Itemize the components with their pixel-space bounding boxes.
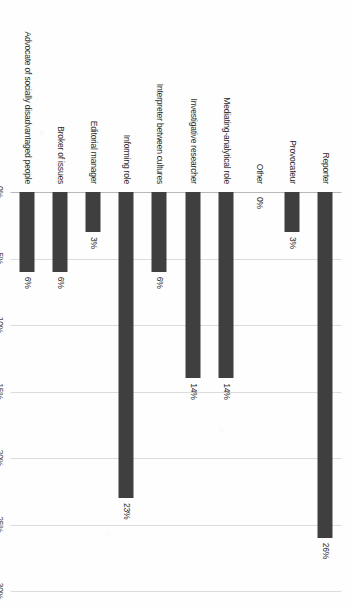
bar [218, 192, 233, 378]
category-label: Provocateur [284, 140, 299, 184]
axis-tick-label: 20% [0, 450, 4, 466]
category-label: Reporter [317, 153, 332, 184]
bar-value-label: 6% [52, 277, 67, 289]
bar-value-label: 26% [317, 543, 332, 559]
category-label: Broker of issues [52, 126, 67, 184]
axis-tick-label: 10% [0, 317, 4, 333]
gridline-20 [10, 458, 341, 459]
bar-value-label: 14% [218, 383, 233, 399]
bar [151, 192, 166, 272]
bar [118, 192, 133, 498]
axis-tick-label: 30% [0, 583, 4, 599]
bar-chart-figure: 0%5%10%15%20%25%30%26%Reporter3%Provocat… [0, 0, 351, 606]
bar-value-label: 6% [19, 277, 34, 289]
bar-value-label: 14% [185, 383, 200, 399]
gridline-30 [10, 591, 341, 592]
axis-tick-label: 25% [0, 516, 4, 532]
category-label: Other [251, 164, 266, 184]
bar-value-label: 23% [118, 503, 133, 519]
category-label: Interpreter between cultures [151, 84, 166, 184]
bar-value-label: 3% [284, 237, 299, 249]
axis-tick-label: 15% [0, 383, 4, 399]
plot-area: 0%5%10%15%20%25%30%26%Reporter3%Provocat… [10, 192, 341, 591]
bar-value-label: 3% [85, 237, 100, 249]
bar-value-label: 0% [251, 197, 266, 209]
category-label: Advocate of socially disadvantaged peopl… [19, 32, 34, 184]
category-label: Informing role [118, 135, 133, 184]
axis-tick-label: 5% [0, 253, 4, 265]
bar [19, 192, 34, 272]
bar [85, 192, 100, 232]
bar [284, 192, 299, 232]
category-label: Investigative researcher [185, 99, 200, 184]
gridline-15 [10, 392, 341, 393]
bar-value-label: 6% [151, 277, 166, 289]
category-label: Editorial manager [85, 121, 100, 184]
bar [52, 192, 67, 272]
bar [317, 192, 332, 538]
bar [185, 192, 200, 378]
category-label: Mediating-analytical role [218, 97, 233, 184]
gridline-10 [10, 325, 341, 326]
gridline-25 [10, 525, 341, 526]
axis-tick-label: 0% [0, 186, 4, 198]
